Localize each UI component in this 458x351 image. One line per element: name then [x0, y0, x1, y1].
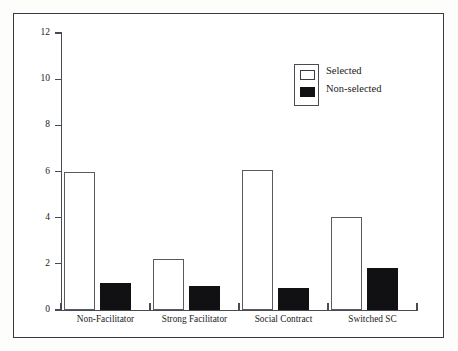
legend-swatch-selected: [300, 70, 315, 80]
legend-label-selected: Selected: [326, 65, 362, 77]
y-axis-tick-label: 8: [24, 120, 50, 130]
bar-selected: [64, 172, 95, 311]
y-axis-tick-label: 2: [24, 259, 50, 269]
x-axis-tick: [149, 303, 150, 310]
legend-box: [294, 64, 319, 106]
y-axis-tick: [55, 263, 62, 264]
legend-swatch-non-selected: [300, 87, 315, 97]
y-axis-tick-label: 0: [24, 305, 50, 315]
y-axis-tick: [55, 32, 62, 33]
bar-selected: [153, 259, 184, 310]
legend-label-non-selected: Non-selected: [326, 83, 381, 95]
x-axis-tick: [416, 303, 417, 310]
y-axis-tick: [55, 79, 62, 80]
y-axis-tick-label: 4: [24, 213, 50, 223]
bar-non-selected: [367, 268, 398, 310]
bar-non-selected: [100, 283, 131, 310]
x-axis-tick: [327, 303, 328, 310]
y-axis-tick-label: 6: [24, 167, 50, 177]
x-axis-tick: [238, 303, 239, 310]
x-axis-category-label: Switched SC: [328, 314, 417, 325]
bar-non-selected: [189, 286, 220, 310]
bar-selected: [242, 170, 273, 310]
x-axis-category-label: Strong Facilitator: [150, 314, 239, 325]
x-axis-category-label: Non-Facilitator: [61, 314, 150, 325]
y-axis-tick: [55, 125, 62, 126]
y-axis-tick-label: 12: [24, 28, 50, 38]
bar-selected: [331, 217, 362, 310]
chart-figure: 024681012 Non-FacilitatorStrong Facilita…: [0, 0, 458, 351]
y-axis-tick: [55, 217, 62, 218]
x-axis-category-label: Social Contract: [239, 314, 328, 325]
x-axis-tick: [60, 303, 61, 310]
y-axis-tick: [55, 171, 62, 172]
bar-non-selected: [278, 288, 309, 310]
y-axis-tick-label: 10: [24, 74, 50, 84]
